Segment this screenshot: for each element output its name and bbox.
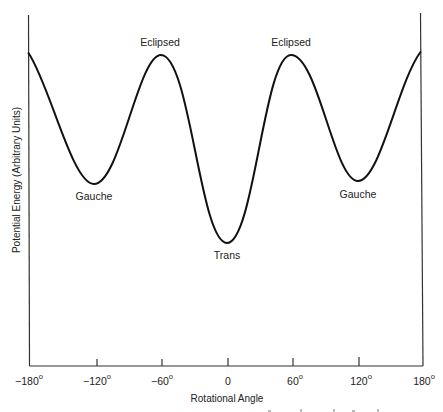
y-axis-right bbox=[421, 13, 424, 366]
tick-label-text: 180 bbox=[413, 375, 431, 387]
tick-label-minus-180: −180o bbox=[15, 372, 43, 387]
degree-symbol: o bbox=[107, 372, 111, 381]
degree-symbol: o bbox=[299, 372, 303, 381]
degree-symbol: o bbox=[431, 372, 435, 381]
tick-label-180: 180o bbox=[413, 372, 435, 387]
label-eclipsed-right: Eclipsed bbox=[271, 36, 311, 48]
tick-label-minus-60: −60o bbox=[151, 372, 173, 387]
tick-label-text: −60 bbox=[151, 375, 169, 387]
degree-symbol: o bbox=[169, 372, 173, 381]
tick-label-text: −180 bbox=[15, 375, 39, 387]
x-axis-ticks bbox=[97, 357, 359, 366]
label-trans: Trans bbox=[214, 249, 240, 261]
y-axis-title: Potential Energy (Arbitrary Units) bbox=[11, 107, 22, 253]
tick-label-minus-120: −120o bbox=[83, 372, 111, 387]
tick-label-0: 0 bbox=[225, 375, 231, 387]
x-tick-labels: −180o −120o −60o 0 60o 120o 180o bbox=[15, 372, 435, 387]
label-gauche-right: Gauche bbox=[340, 188, 377, 200]
y-axis-left bbox=[29, 15, 30, 366]
label-eclipsed-left: Eclipsed bbox=[140, 36, 180, 48]
degree-symbol: o bbox=[368, 372, 372, 381]
degree-symbol: o bbox=[39, 372, 43, 381]
potential-energy-chart: Eclipsed Eclipsed Gauche Gauche Trans −1… bbox=[0, 0, 443, 412]
tick-label-text: 60 bbox=[287, 375, 299, 387]
tick-label-text: 120 bbox=[350, 375, 368, 387]
tick-label-120: 120o bbox=[350, 372, 372, 387]
x-axis-title: Rotational Angle bbox=[191, 393, 264, 404]
energy-curve bbox=[29, 52, 421, 243]
tick-label-60: 60o bbox=[287, 372, 303, 387]
tick-label-text: −120 bbox=[83, 375, 107, 387]
label-gauche-left: Gauche bbox=[76, 190, 113, 202]
